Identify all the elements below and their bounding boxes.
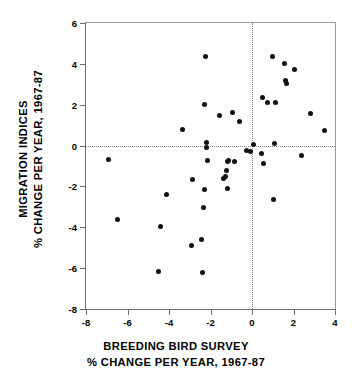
y-axis-tick-label: -2	[69, 181, 77, 192]
y-axis-tick	[80, 268, 86, 269]
y-axis-tick-label: -4	[69, 222, 77, 233]
scatter-point	[202, 187, 207, 192]
scatter-point	[202, 102, 207, 107]
y-axis-tick-label: -8	[69, 304, 77, 315]
scatter-point	[217, 113, 222, 118]
x-axis-tick	[86, 309, 87, 315]
y-axis-tick-label: 6	[72, 18, 77, 29]
scatter-point	[201, 205, 206, 210]
scatter-point	[282, 61, 287, 66]
scatter-point	[205, 158, 210, 163]
y-axis-tick	[80, 227, 86, 228]
scatter-point	[180, 127, 185, 132]
x-axis-title-line-1: BREEDING BIRD SURVEY	[0, 339, 352, 355]
scatter-point	[156, 269, 161, 274]
y-axis-tick-label: -6	[69, 263, 77, 274]
scatter-point	[230, 110, 235, 115]
y-axis-tick-label: 2	[72, 99, 77, 110]
scatter-point	[204, 145, 209, 150]
y-axis-title-text: MIGRATION INDICES % CHANGE PER YEAR, 196…	[16, 70, 46, 248]
scatter-point	[223, 174, 228, 179]
x-axis-tick	[335, 309, 336, 315]
scatter-point	[265, 100, 270, 105]
x-axis-tick-label: -8	[82, 317, 90, 328]
scatter-point	[322, 128, 327, 133]
scatter-point	[292, 67, 297, 72]
scatter-point	[106, 157, 111, 162]
scatter-point	[271, 197, 276, 202]
plot-area: 6420-2-4-6-8-8-6-4-2024	[85, 22, 336, 310]
scatter-point	[308, 111, 313, 116]
scatter-point	[270, 54, 275, 59]
y-axis-tick	[80, 146, 86, 147]
y-axis-title: MIGRATION INDICES % CHANGE PER YEAR, 196…	[0, 0, 62, 318]
x-axis-tick-label: -2	[206, 317, 214, 328]
x-axis-tick	[294, 309, 295, 315]
x-axis-title-line-2: % CHANGE PER YEAR, 1967-87	[0, 355, 352, 371]
scatter-point	[224, 168, 229, 173]
y-axis-tick	[80, 64, 86, 65]
scatter-point	[237, 119, 242, 124]
scatter-point	[251, 142, 256, 147]
scatter-point	[158, 224, 163, 229]
y-axis-tick	[80, 105, 86, 106]
scatter-plot-figure: MIGRATION INDICES % CHANGE PER YEAR, 196…	[0, 0, 352, 390]
scatter-point	[203, 54, 208, 59]
x-axis-tick	[128, 309, 129, 315]
scatter-point	[232, 159, 237, 164]
x-axis-tick-label: -4	[165, 317, 173, 328]
x-axis-title: BREEDING BIRD SURVEY % CHANGE PER YEAR, …	[0, 339, 352, 370]
scatter-point	[200, 270, 205, 275]
scatter-point	[226, 158, 231, 163]
scatter-point	[284, 81, 289, 86]
reference-line-horizontal	[86, 146, 335, 147]
scatter-point	[199, 237, 204, 242]
scatter-point	[299, 153, 304, 158]
y-axis-title-line-2: % CHANGE PER YEAR, 1967-87	[31, 70, 46, 248]
scatter-point	[189, 243, 194, 248]
y-axis-tick-label: 0	[72, 140, 77, 151]
scatter-point	[261, 161, 266, 166]
x-axis-tick-label: -6	[123, 317, 131, 328]
y-axis-tick	[80, 23, 86, 24]
x-axis-tick	[211, 309, 212, 315]
scatter-point	[115, 217, 120, 222]
x-axis-tick-label: 2	[291, 317, 296, 328]
scatter-point	[273, 100, 278, 105]
x-axis-tick-label: 4	[332, 317, 337, 328]
y-axis-tick-label: 4	[72, 58, 77, 69]
x-axis-tick	[252, 309, 253, 315]
scatter-point	[190, 177, 195, 182]
x-axis-tick-label: 0	[249, 317, 254, 328]
plot-inner	[86, 23, 335, 309]
scatter-point	[259, 151, 264, 156]
y-axis-title-line-1: MIGRATION INDICES	[16, 70, 31, 248]
y-axis-tick	[80, 186, 86, 187]
scatter-point	[260, 95, 265, 100]
x-axis-tick	[169, 309, 170, 315]
reference-line-vertical	[252, 23, 253, 309]
scatter-point	[225, 186, 230, 191]
scatter-point	[164, 192, 169, 197]
